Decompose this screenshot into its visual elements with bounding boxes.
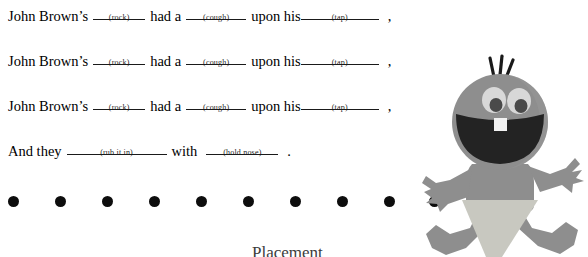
- verse-line-3: John Brown’s(rock)had a(cough)upon his(t…: [8, 96, 391, 113]
- dot-marker: [196, 196, 207, 207]
- verse-line-4: And they(rub it in)with(hold nose).: [8, 141, 291, 158]
- dot-marker: [55, 196, 66, 207]
- verse-2-hint-tap: (tap): [301, 59, 379, 67]
- verse-line-1: John Brown’s(rock)had a(cough)upon his(t…: [8, 6, 391, 23]
- verse-4-blank-hold-nose[interactable]: (hold nose): [206, 141, 278, 156]
- verse-1-blank-rock[interactable]: (rock): [93, 6, 145, 21]
- verse-2-blank-cough[interactable]: (cough): [186, 51, 246, 66]
- verse-4-hint-rub-it-in: (rub it in): [67, 149, 167, 157]
- verse-3-hint-cough: (cough): [186, 104, 246, 112]
- verse-1-text-1: John Brown’s: [8, 9, 88, 24]
- verse-1-blank-cough[interactable]: (cough): [186, 6, 246, 21]
- verse-3-text-1: John Brown’s: [8, 99, 88, 114]
- verse-3-hint-rock: (rock): [93, 104, 145, 112]
- verse-3-hint-tap: (tap): [301, 104, 379, 112]
- dot-marker: [8, 196, 19, 207]
- cartoon-baby-illustration: [410, 52, 588, 257]
- tooth: [494, 118, 507, 131]
- verse-1-text-2: had a: [150, 9, 181, 24]
- dot-marker: [337, 196, 348, 207]
- verse-2-text-3: upon his: [251, 54, 301, 69]
- verse-4-text-2: with: [172, 144, 198, 159]
- left-eye-pupil: [490, 98, 503, 112]
- dot-marker: [149, 196, 160, 207]
- dot-marker: [290, 196, 301, 207]
- dot-marker: [102, 196, 113, 207]
- dot-marker: [243, 196, 254, 207]
- verse-2-hint-cough: (cough): [186, 59, 246, 67]
- verse-line-2: John Brown’s(rock)had a(cough)upon his(t…: [8, 51, 391, 68]
- verse-3-punctuation: ,: [388, 99, 392, 114]
- verse-1-hint-cough: (cough): [186, 14, 246, 22]
- verse-3-text-2: had a: [150, 99, 181, 114]
- verse-2-hint-rock: (rock): [93, 59, 145, 67]
- worksheet-page: John Brown’s(rock)had a(cough)upon his(t…: [0, 0, 588, 257]
- clipped-bottom-text: Placement: [252, 244, 323, 257]
- verse-4-blank-rub-it-in[interactable]: (rub it in): [67, 141, 167, 156]
- right-eye-pupil: [515, 99, 528, 113]
- verse-1-blank-tap[interactable]: (tap): [301, 6, 379, 21]
- verse-2-text-1: John Brown’s: [8, 54, 88, 69]
- verse-4-hint-hold-nose: (hold nose): [206, 149, 278, 157]
- verse-2-text-2: had a: [150, 54, 181, 69]
- verse-3-blank-tap[interactable]: (tap): [301, 96, 379, 111]
- verse-3-text-3: upon his: [251, 99, 301, 114]
- dot-marker: [384, 196, 395, 207]
- verse-2-blank-tap[interactable]: (tap): [301, 51, 379, 66]
- verse-1-punctuation: ,: [388, 9, 392, 24]
- verse-2-blank-rock[interactable]: (rock): [93, 51, 145, 66]
- verse-3-blank-rock[interactable]: (rock): [93, 96, 145, 111]
- verse-1-hint-rock: (rock): [93, 14, 145, 22]
- dot-row: [0, 196, 446, 212]
- verse-2-punctuation: ,: [388, 54, 392, 69]
- verse-4-punctuation: .: [287, 144, 291, 159]
- verse-3-blank-cough[interactable]: (cough): [186, 96, 246, 111]
- verse-1-hint-tap: (tap): [301, 14, 379, 22]
- right-arm: [528, 158, 584, 193]
- verse-4-text-1: And they: [8, 144, 62, 159]
- verse-1-text-3: upon his: [251, 9, 301, 24]
